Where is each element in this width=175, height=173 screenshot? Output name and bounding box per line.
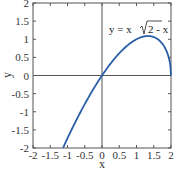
y-axis-label: y	[0, 72, 14, 78]
y-tick-label: 2	[24, 0, 30, 9]
y-tick-label: 0.5	[15, 51, 29, 63]
x-tick-label: -2	[28, 149, 37, 161]
annotation-radicand: 2 - x	[148, 23, 169, 35]
x-tick-label: 0.5	[112, 149, 126, 161]
y-tick-label: -1.5	[12, 124, 30, 136]
x-tick-label: 2	[168, 149, 174, 161]
x-tick-label: -0.5	[76, 149, 94, 161]
chart: -2-1.5-1-0.500.511.52 -2-1.5-1-0.500.511…	[0, 0, 175, 173]
annotation-prefix: y = x	[109, 23, 132, 35]
x-tick-label: -1.5	[42, 149, 60, 161]
y-tick-label: 1	[24, 33, 30, 45]
y-tick-labels: -2-1.5-1-0.500.511.52	[12, 0, 30, 154]
y-tick-label: -0.5	[12, 88, 30, 100]
y-tick-label: -1	[20, 106, 29, 118]
y-tick-label: 0	[24, 70, 30, 82]
x-tick-label: 1	[134, 149, 140, 161]
x-tick-label: -1	[63, 149, 72, 161]
x-axis-label: x	[99, 157, 105, 171]
x-tick-label: 1.5	[147, 149, 161, 161]
y-tick-label: 1.5	[15, 15, 29, 27]
